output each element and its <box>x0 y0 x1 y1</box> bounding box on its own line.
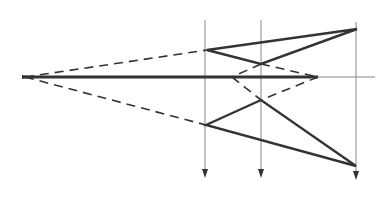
upper-triangle <box>207 29 357 64</box>
dashed-ray <box>261 77 318 100</box>
dashed-ray <box>232 77 261 100</box>
arrow-down-icon <box>258 169 264 178</box>
arrow-down-icon <box>202 169 208 178</box>
dashed-construction-lines <box>25 50 318 125</box>
lower-triangle <box>206 100 356 166</box>
triangles <box>206 29 357 166</box>
dashed-ray <box>261 64 318 77</box>
arrow-down-icon <box>353 171 359 180</box>
dashed-ray <box>25 50 207 77</box>
dashed-ray <box>25 77 206 125</box>
ray-diagram <box>0 0 388 213</box>
arrowheads <box>202 169 359 180</box>
optical-axis <box>22 75 318 79</box>
dashed-ray <box>232 64 261 77</box>
thin-guide-lines <box>25 20 375 174</box>
